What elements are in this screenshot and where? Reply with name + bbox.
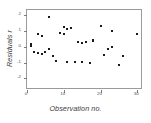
data-point (66, 28, 68, 30)
data-point (70, 27, 72, 29)
data-point (81, 61, 83, 63)
plot-area (26, 9, 142, 89)
y-tick-mark (24, 15, 27, 16)
y-tick-mark (24, 31, 27, 32)
y-tick-mark (24, 63, 27, 64)
y-tick-mark (24, 78, 27, 79)
y-tick-label: -1 (17, 59, 21, 63)
data-point (48, 48, 50, 50)
data-point (107, 48, 109, 50)
data-point (30, 45, 32, 47)
data-point (89, 62, 91, 64)
data-point (63, 26, 65, 28)
y-tick-label: 2 (19, 12, 21, 16)
x-tick-label: 20 (97, 92, 102, 96)
data-point (37, 33, 39, 35)
x-tick-label: 10 (60, 92, 65, 96)
data-point (37, 52, 39, 54)
y-tick-label: -2 (17, 75, 21, 79)
data-point (33, 51, 35, 53)
y-tick-label: 1 (19, 27, 21, 31)
data-point (41, 53, 43, 55)
data-point (122, 55, 124, 57)
data-point (77, 41, 79, 43)
x-axis-title: Observation no. (0, 104, 151, 113)
residual-scatter-chart: 210-1-2 0102030 Residuals r Observation … (0, 0, 151, 123)
data-point (103, 54, 105, 56)
x-tick-labels: 0102030 (26, 92, 142, 102)
data-point (81, 42, 83, 44)
data-point (55, 60, 57, 62)
data-point (85, 41, 87, 43)
data-point (48, 16, 50, 18)
data-point (92, 40, 94, 42)
data-point (74, 61, 76, 63)
y-axis-title: Residuals r (5, 12, 14, 86)
data-point (41, 35, 43, 37)
data-point (52, 55, 54, 57)
data-point (111, 30, 113, 32)
x-tick-label: 30 (134, 92, 139, 96)
data-point (136, 33, 138, 35)
y-tick-mark (24, 47, 27, 48)
x-tick-label: 0 (25, 92, 27, 96)
data-point (44, 51, 46, 53)
data-point (118, 64, 120, 66)
data-point (100, 25, 102, 27)
data-point (63, 33, 65, 35)
data-point (66, 61, 68, 63)
data-point (59, 32, 61, 34)
data-point (111, 46, 113, 48)
y-tick-label: 0 (19, 43, 21, 47)
